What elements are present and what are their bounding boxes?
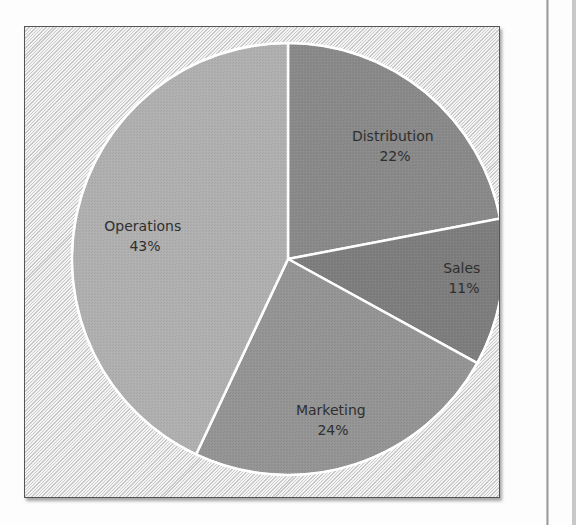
pie-chart: Distribution 22% Sales 11% Marketing 24%… — [25, 27, 499, 497]
chart-frame: Distribution 22% Sales 11% Marketing 24%… — [24, 26, 500, 498]
page-edge — [572, 0, 576, 525]
page: Distribution 22% Sales 11% Marketing 24%… — [0, 0, 576, 525]
pie-slices — [72, 43, 499, 475]
page-divider-line — [546, 0, 549, 525]
